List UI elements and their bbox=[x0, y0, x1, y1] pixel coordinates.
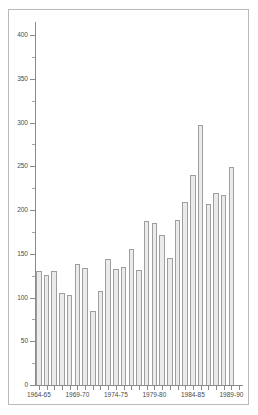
y-axis-minor-tick bbox=[32, 101, 35, 102]
bar bbox=[198, 125, 204, 385]
y-axis-tick-label: 100 bbox=[0, 294, 28, 301]
y-axis-minor-tick bbox=[32, 363, 35, 364]
x-axis-tick bbox=[162, 386, 163, 390]
y-axis-tick-label: 0 bbox=[0, 381, 28, 388]
x-axis-tick bbox=[62, 386, 63, 390]
y-axis-tick-label: 200 bbox=[0, 206, 28, 213]
x-axis-tick bbox=[193, 386, 194, 390]
x-axis-tick bbox=[208, 386, 209, 390]
x-axis-tick-label: 1964-65 bbox=[27, 391, 51, 398]
bar bbox=[51, 271, 57, 385]
y-axis-major-tick bbox=[30, 210, 35, 211]
x-axis-tick bbox=[47, 386, 48, 390]
x-axis-tick bbox=[39, 386, 40, 390]
bar bbox=[213, 193, 219, 385]
x-axis-tick-label: 1984-85 bbox=[181, 391, 205, 398]
y-axis-tick-label: 150 bbox=[0, 250, 28, 257]
bar bbox=[90, 311, 96, 385]
y-axis-tick-label: 350 bbox=[0, 75, 28, 82]
x-axis-tick bbox=[147, 386, 148, 390]
x-axis-tick bbox=[185, 386, 186, 390]
x-axis-tick bbox=[77, 386, 78, 390]
y-axis-major-tick bbox=[30, 341, 35, 342]
x-axis-tick bbox=[231, 386, 232, 390]
bar bbox=[82, 268, 88, 385]
x-axis-tick bbox=[224, 386, 225, 390]
y-axis-tick-label: 300 bbox=[0, 119, 28, 126]
x-axis-tick bbox=[116, 386, 117, 390]
y-axis-minor-tick bbox=[32, 188, 35, 189]
bar bbox=[206, 204, 212, 385]
x-axis-tick bbox=[70, 386, 71, 390]
x-axis-tick bbox=[154, 386, 155, 390]
x-axis-tick bbox=[170, 386, 171, 390]
x-axis-tick bbox=[108, 386, 109, 390]
bar bbox=[59, 293, 65, 385]
x-axis-tick-label: 1969-70 bbox=[65, 391, 89, 398]
bar bbox=[113, 269, 119, 385]
x-axis-tick bbox=[85, 386, 86, 390]
bar bbox=[121, 267, 127, 385]
bar bbox=[44, 275, 50, 385]
bar bbox=[136, 270, 142, 385]
y-axis-tick-label: 50 bbox=[0, 337, 28, 344]
y-axis-major-tick bbox=[30, 254, 35, 255]
x-axis-tick bbox=[93, 386, 94, 390]
bar bbox=[152, 223, 158, 385]
bar bbox=[98, 291, 104, 385]
x-axis-tick bbox=[54, 386, 55, 390]
y-axis-tick-label: 250 bbox=[0, 162, 28, 169]
bar bbox=[167, 258, 173, 385]
bar bbox=[221, 195, 227, 385]
x-axis-tick bbox=[131, 386, 132, 390]
x-axis-tick-label: 1974-75 bbox=[104, 391, 128, 398]
x-axis-tick bbox=[201, 386, 202, 390]
bar bbox=[190, 175, 196, 385]
bar bbox=[229, 167, 235, 385]
x-axis-tick bbox=[239, 386, 240, 390]
y-axis-minor-tick bbox=[32, 144, 35, 145]
y-axis-minor-tick bbox=[32, 232, 35, 233]
x-axis-tick bbox=[100, 386, 101, 390]
y-axis-major-tick bbox=[30, 123, 35, 124]
bar bbox=[129, 249, 135, 385]
y-axis-major-tick bbox=[30, 298, 35, 299]
y-axis-major-tick bbox=[30, 385, 35, 386]
x-axis-tick-label: 1989-90 bbox=[220, 391, 244, 398]
bar bbox=[67, 295, 73, 385]
y-axis-minor-tick bbox=[32, 57, 35, 58]
y-axis-minor-tick bbox=[32, 319, 35, 320]
y-axis-major-tick bbox=[30, 79, 35, 80]
x-axis-tick bbox=[124, 386, 125, 390]
bar bbox=[144, 221, 150, 385]
bar bbox=[175, 220, 181, 385]
bar bbox=[36, 271, 42, 385]
bar bbox=[159, 235, 165, 385]
chart-figure: 050100150200250300350400 1964-651969-701… bbox=[0, 0, 258, 415]
x-axis-tick bbox=[178, 386, 179, 390]
y-axis-tick-label: 400 bbox=[0, 31, 28, 38]
bar bbox=[105, 259, 111, 385]
y-axis-major-tick bbox=[30, 35, 35, 36]
x-axis-tick-label: 1979-80 bbox=[142, 391, 166, 398]
y-axis-major-tick bbox=[30, 166, 35, 167]
bar bbox=[182, 202, 188, 385]
bar bbox=[75, 264, 81, 385]
y-axis-minor-tick bbox=[32, 276, 35, 277]
x-axis-tick bbox=[139, 386, 140, 390]
x-axis-tick bbox=[216, 386, 217, 390]
